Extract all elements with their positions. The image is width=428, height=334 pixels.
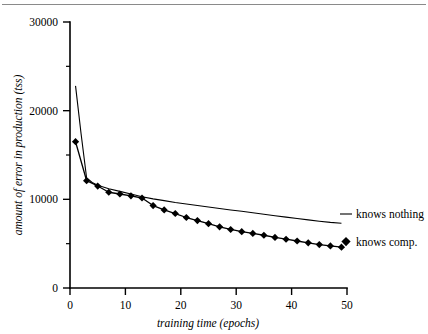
x-tick-label-30: 30: [230, 299, 242, 311]
data-point-marker: [227, 226, 234, 233]
series-knows-nothing: [76, 86, 342, 223]
data-point-marker: [327, 242, 334, 249]
x-tick-label-40: 40: [286, 299, 298, 311]
data-point-marker: [249, 230, 256, 237]
legend: knows nothing knows comp.: [340, 208, 424, 249]
data-point-marker: [294, 237, 301, 244]
data-point-marker: [282, 236, 289, 243]
legend-label-knows-comp: knows comp.: [356, 236, 417, 249]
legend-swatch-knows-comp: [341, 237, 350, 246]
data-point-marker: [216, 223, 223, 230]
x-tick-label-0: 0: [67, 299, 73, 311]
data-point-marker: [205, 220, 212, 227]
x-tick-label-50: 50: [341, 299, 353, 311]
data-point-marker: [305, 239, 312, 246]
y-tick-label-20000: 20000: [29, 105, 58, 117]
x-tick-label-20: 20: [175, 299, 187, 311]
y-tick-label-10000: 10000: [29, 193, 58, 205]
data-point-marker: [238, 228, 245, 235]
x-axis-title: training time (epochs): [157, 317, 259, 330]
x-axis-group: 0 10 20 30 40 50 training time (epochs): [67, 288, 353, 330]
chart-page: 30000 20000 10000 0 amount of error in p…: [0, 0, 428, 334]
series-knows-comp: [72, 138, 345, 251]
data-point-marker: [194, 217, 201, 224]
knows-nothing-line: [76, 86, 342, 223]
data-point-marker: [161, 206, 168, 213]
legend-label-knows-nothing: knows nothing: [356, 208, 424, 221]
data-point-marker: [138, 194, 145, 201]
y-tick-label-0: 0: [52, 282, 58, 294]
data-point-marker: [271, 234, 278, 241]
data-point-marker: [338, 244, 345, 251]
y-axis-title: amount of error in production (tss): [12, 75, 25, 236]
error-vs-training-time-chart: 30000 20000 10000 0 amount of error in p…: [0, 0, 428, 334]
knows-comp-line: [76, 142, 342, 248]
data-point-marker: [183, 214, 190, 221]
y-tick-label-30000: 30000: [29, 16, 58, 28]
data-point-marker: [172, 210, 179, 217]
data-point-marker: [316, 241, 323, 248]
knows-comp-markers: [72, 138, 345, 251]
data-point-marker: [150, 202, 157, 209]
data-point-marker: [72, 138, 79, 145]
data-point-marker: [260, 232, 267, 239]
data-point-marker: [83, 177, 90, 184]
x-tick-label-10: 10: [120, 299, 132, 311]
y-axis-group: 30000 20000 10000 0 amount of error in p…: [12, 16, 70, 294]
